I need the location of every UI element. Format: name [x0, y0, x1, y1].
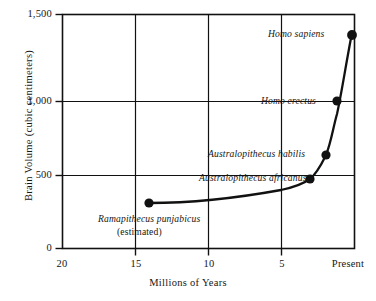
- xtick-label-5: 5: [262, 258, 302, 269]
- point-label-homo-sapiens: Homo sapiens: [268, 28, 324, 39]
- data-point-homo-erectus: [332, 96, 341, 105]
- ytick-label-1500: 1,500: [2, 8, 52, 19]
- data-point-ramapithecus-punjabicus: [144, 198, 153, 207]
- xtick-label-present: Present: [320, 258, 376, 269]
- chart-canvas: [0, 0, 376, 301]
- brain-volume-chart: 1,500 1,000 500 0 20 15 10 5 Present Bra…: [0, 0, 376, 301]
- data-point-australopithecus-habilis: [321, 150, 330, 159]
- point-label-ramapithecus-punjabicus: Ramapithecus punjabicus: [98, 213, 200, 224]
- point-label-homo-erectus: Homo erectus: [261, 95, 316, 106]
- xtick-label-10: 10: [189, 258, 229, 269]
- xtick-label-20: 20: [42, 258, 82, 269]
- point-label-australopithecus-africanus: Australopithecus africanus: [199, 172, 307, 183]
- data-point-homo-sapiens: [347, 30, 357, 40]
- y-axis-title: Brain Volume (cubic centimeters): [23, 26, 34, 226]
- xtick-label-15: 15: [116, 258, 156, 269]
- ytick-label-0: 0: [2, 242, 52, 253]
- x-axis-title: Millions of Years: [0, 277, 376, 288]
- point-sublabel-ramapithecus-estimated: (estimated): [117, 226, 162, 237]
- point-label-australopithecus-habilis: Australopithecus habilis: [208, 148, 305, 159]
